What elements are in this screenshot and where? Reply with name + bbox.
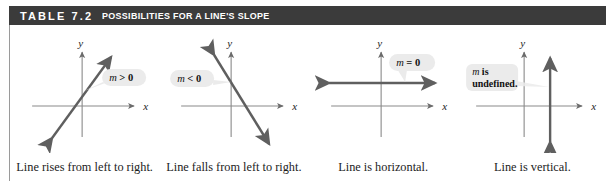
caption-zero-slope: Line is horizontal. bbox=[309, 160, 458, 175]
panel-undefined-slope: x y m is undefined. Line is vertical. bbox=[458, 25, 607, 181]
svg-text:undefined.: undefined. bbox=[472, 78, 518, 89]
svg-text:y: y bbox=[226, 37, 232, 49]
svg-text:m = 0: m = 0 bbox=[396, 57, 420, 68]
table-figure: TABLE 7.2 POSSIBILITIES FOR A LINE'S SLO… bbox=[0, 0, 615, 184]
svg-text:x: x bbox=[590, 100, 596, 112]
panel-positive-slope: x y m > 0 Line rises from left to right. bbox=[10, 25, 159, 181]
svg-text:y: y bbox=[519, 37, 525, 49]
graph-negative-slope: x y m < 0 bbox=[159, 25, 308, 153]
table-body: x y m > 0 Line rises from left to right. bbox=[9, 25, 606, 181]
graph-positive-slope: x y m > 0 bbox=[10, 25, 159, 153]
caption-positive-slope: Line rises from left to right. bbox=[10, 160, 159, 175]
svg-text:x: x bbox=[142, 100, 148, 112]
caption-negative-slope: Line falls from left to right. bbox=[159, 160, 308, 175]
svg-text:y: y bbox=[77, 37, 83, 49]
panel-zero-slope: x y m = 0 Line is horizontal. bbox=[309, 25, 458, 181]
table-title: POSSIBILITIES FOR A LINE'S SLOPE bbox=[102, 10, 270, 21]
svg-text:m > 0: m > 0 bbox=[109, 72, 133, 83]
svg-text:m < 0: m < 0 bbox=[177, 73, 201, 84]
panel-row: x y m > 0 Line rises from left to right. bbox=[10, 25, 607, 181]
graph-zero-slope: x y m = 0 bbox=[309, 25, 458, 153]
panel-negative-slope: x y m < 0 Line falls from left to right. bbox=[159, 25, 308, 181]
table-header: TABLE 7.2 POSSIBILITIES FOR A LINE'S SLO… bbox=[9, 6, 606, 25]
svg-text:m is: m is bbox=[472, 66, 489, 77]
svg-text:x: x bbox=[291, 100, 297, 112]
svg-text:y: y bbox=[376, 37, 382, 49]
svg-text:x: x bbox=[441, 100, 447, 112]
table-number-label: TABLE 7.2 bbox=[20, 10, 93, 22]
graph-undefined-slope: x y m is undefined. bbox=[458, 25, 607, 153]
caption-undefined-slope: Line is vertical. bbox=[458, 160, 607, 175]
